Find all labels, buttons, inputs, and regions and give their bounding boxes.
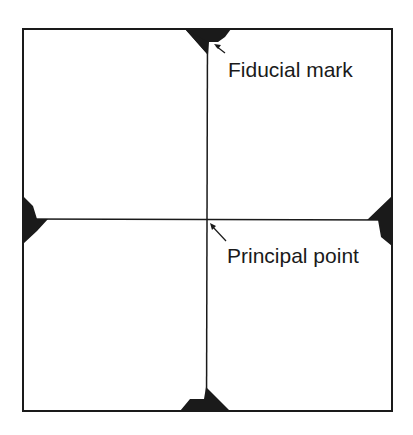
principal-point-label: Principal point [227, 244, 359, 267]
fiducial-mark-arrow-icon [214, 44, 221, 49]
principal-point-arrow-shaft [212, 226, 226, 241]
photo-frame-diagram: Fiducial mark Principal point [0, 0, 413, 435]
right-fiducial-mark [367, 196, 392, 246]
fiducial-mark-label: Fiducial mark [228, 58, 353, 81]
left-fiducial-mark [23, 196, 48, 244]
bottom-fiducial-mark [180, 387, 230, 411]
horizontal-fiducial-line [23, 219, 392, 220]
